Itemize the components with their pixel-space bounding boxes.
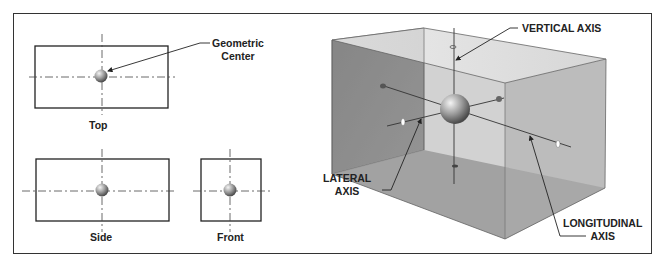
lateral-axis-label: LATERAL AXIS	[323, 172, 371, 198]
side-view	[22, 149, 176, 232]
lateral-axis-line1: LATERAL	[323, 172, 371, 185]
longitudinal-axis-line2: AXIS	[563, 230, 642, 243]
front-view	[193, 149, 272, 232]
vertical-axis-label: VERTICAL AXIS	[522, 22, 601, 35]
geometric-center-label: Geometric Center	[212, 37, 264, 63]
lateral-axis-line2: AXIS	[323, 185, 371, 198]
geometric-center-line1: Geometric	[212, 37, 264, 50]
longitudinal-axis-label: LONGITUDINAL AXIS	[563, 217, 642, 243]
view-label-top: Top	[89, 119, 107, 132]
geometric-center-leader	[108, 43, 210, 71]
box-3d	[332, 28, 606, 239]
center-sphere	[440, 94, 470, 124]
geometric-center-line2: Center	[212, 50, 264, 63]
top-view	[29, 34, 210, 115]
view-label-side: Side	[90, 231, 112, 244]
geometric-center-ball	[95, 70, 108, 83]
longitudinal-axis-line1: LONGITUDINAL	[563, 217, 642, 230]
view-label-front: Front	[217, 231, 244, 244]
